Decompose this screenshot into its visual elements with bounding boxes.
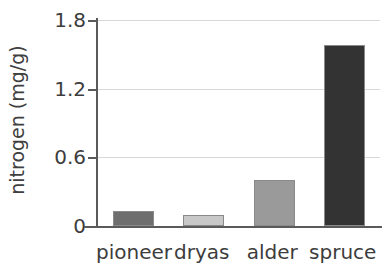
bar xyxy=(324,45,365,226)
y-axis-tick-label: 0 xyxy=(0,216,86,236)
y-axis-tick-label: 0.6 xyxy=(0,147,86,167)
y-axis-tick-mark xyxy=(88,157,97,159)
y-axis-tick-mark xyxy=(88,20,97,22)
y-axis-tick-label: 1.2 xyxy=(0,79,86,99)
y-axis-tick-label: 1.8 xyxy=(0,10,86,30)
x-axis-spine xyxy=(84,226,382,228)
bar-chart-figure: nitrogen (mg/g) 00.61.21.8 pioneerdryasa… xyxy=(0,0,387,280)
y-axis-tick-labels: 00.61.21.8 xyxy=(0,0,86,280)
bar xyxy=(113,211,154,226)
x-axis-tick-label: pioneer xyxy=(96,240,167,264)
x-axis-tick-label: alder xyxy=(237,240,308,264)
bars-layer xyxy=(98,18,380,226)
bar xyxy=(183,215,224,226)
y-axis-tick-mark xyxy=(88,89,97,91)
x-axis-tick-label: dryas xyxy=(167,240,238,264)
bar xyxy=(254,180,295,226)
x-axis-tick-label: spruce xyxy=(308,240,379,264)
x-axis-tick-labels: pioneerdryasalderspruce xyxy=(96,240,384,272)
